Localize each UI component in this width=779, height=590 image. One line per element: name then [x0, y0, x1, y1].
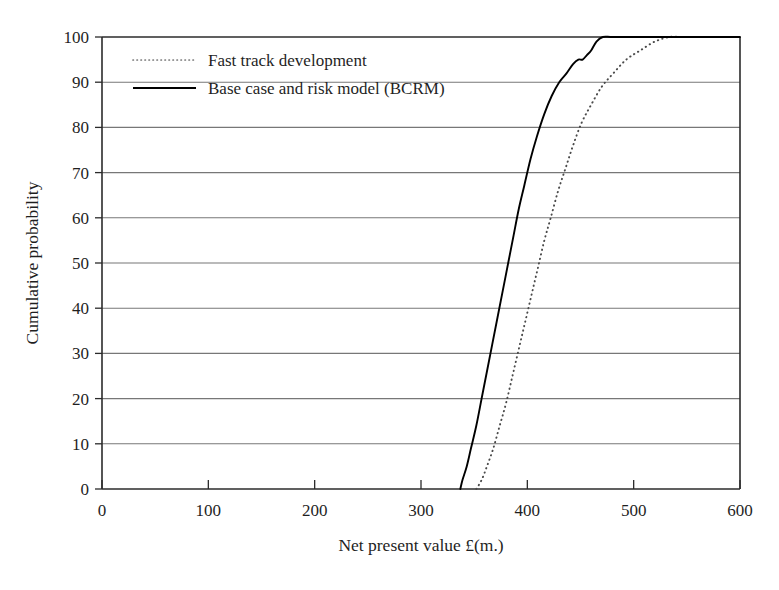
legend-label-bcrm: Base case and risk model (BCRM): [208, 79, 445, 98]
x-tick-label: 100: [196, 501, 222, 520]
y-tick-label: 40: [72, 299, 89, 318]
y-tick-label: 60: [72, 209, 89, 228]
cumulative-probability-chart: 0100200300400500600 01020304050607080901…: [0, 0, 779, 590]
x-tick-label: 200: [302, 501, 328, 520]
y-tick-label: 0: [81, 480, 90, 499]
y-tick-labels: 0102030405060708090100: [64, 28, 90, 499]
legend-label-fast-track: Fast track development: [208, 51, 367, 70]
chart-legend: Fast track development Base case and ris…: [133, 51, 445, 98]
x-tick-label: 600: [727, 501, 753, 520]
gridlines-group: [102, 82, 740, 444]
x-tick-label: 500: [621, 501, 647, 520]
x-tick-label: 0: [98, 501, 107, 520]
y-tick-label: 70: [72, 164, 89, 183]
chart-figure: 0100200300400500600 01020304050607080901…: [0, 0, 779, 590]
x-axis-title: Net present value £(m.): [338, 535, 503, 555]
y-tick-label: 10: [72, 435, 89, 454]
y-tick-label: 50: [72, 254, 89, 273]
y-tick-label: 30: [72, 344, 89, 363]
y-axis-title: Cumulative probability: [22, 181, 42, 344]
y-tick-label: 20: [72, 390, 89, 409]
y-tick-label: 90: [72, 73, 89, 92]
x-tick-label: 400: [515, 501, 541, 520]
x-tick-label: 300: [408, 501, 434, 520]
y-tick-label: 100: [64, 28, 90, 47]
x-tick-labels: 0100200300400500600: [98, 501, 753, 520]
y-tick-label: 80: [72, 118, 89, 137]
